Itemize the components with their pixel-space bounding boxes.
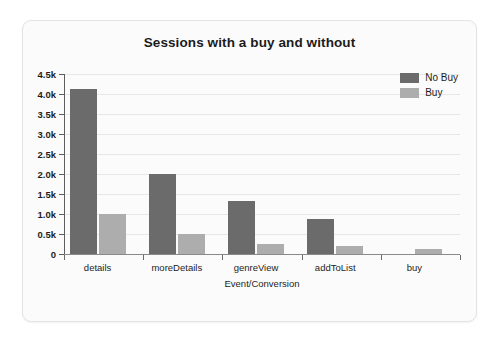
x-axis-tick: [302, 255, 303, 260]
category-label-details: details: [84, 262, 111, 273]
bar-details-buy[interactable]: [99, 214, 126, 254]
bar-moreDetails-no-buy[interactable]: [149, 174, 176, 254]
legend-swatch-buy: [400, 88, 419, 98]
chart-title: Sessions with a buy and without: [23, 35, 476, 50]
y-axis-tick-label: 1.0k: [38, 209, 57, 220]
y-axis-tick: [59, 134, 64, 135]
y-axis-tick: [59, 194, 64, 195]
bar-group: [70, 74, 126, 254]
y-axis-tick-label: 1.5k: [38, 189, 57, 200]
bar-moreDetails-buy[interactable]: [178, 234, 205, 254]
legend-label-buy: Buy: [425, 87, 442, 98]
x-axis-tick: [460, 255, 461, 260]
legend-swatch-no-buy: [400, 73, 419, 83]
category-label-moreDetails: moreDetails: [151, 262, 202, 273]
y-axis-tick: [59, 174, 64, 175]
bar-addToList-no-buy[interactable]: [307, 219, 334, 254]
bar-buy-buy[interactable]: [415, 249, 442, 254]
y-axis-tick: [59, 94, 64, 95]
bar-group: [228, 74, 284, 254]
y-axis-tick-label: 2.5k: [38, 149, 57, 160]
y-axis-tick: [59, 214, 64, 215]
y-axis-tick-label: 0.5k: [38, 229, 57, 240]
x-axis-tick: [64, 255, 65, 260]
category-label-addToList: addToList: [315, 262, 356, 273]
bar-genreView-no-buy[interactable]: [228, 201, 255, 254]
x-axis-tick: [143, 255, 144, 260]
y-axis-tick-label: 2.0k: [38, 169, 57, 180]
y-axis-line: [64, 74, 65, 255]
x-axis-title: Event/Conversion: [64, 278, 460, 289]
y-axis-tick: [59, 114, 64, 115]
y-axis-tick: [59, 234, 64, 235]
bar-group: [149, 74, 205, 254]
legend-label-no-buy: No Buy: [425, 72, 458, 83]
y-axis-tick-label: 3.5k: [38, 109, 57, 120]
category-label-buy: buy: [407, 262, 422, 273]
bar-addToList-buy[interactable]: [336, 246, 363, 254]
category-label-genreView: genreView: [234, 262, 279, 273]
bar-group: [307, 74, 363, 254]
chart-legend: No Buy Buy: [400, 72, 458, 102]
bar-details-no-buy[interactable]: [70, 89, 97, 254]
legend-item-buy[interactable]: Buy: [400, 87, 458, 98]
x-axis-tick: [381, 255, 382, 260]
y-axis-tick: [59, 154, 64, 155]
y-axis-tick-label: 3.0k: [38, 129, 57, 140]
legend-item-no-buy[interactable]: No Buy: [400, 72, 458, 83]
bar-genreView-buy[interactable]: [257, 244, 284, 254]
y-axis-tick-label: 0: [51, 249, 56, 260]
y-axis-tick-label: 4.0k: [38, 89, 57, 100]
x-axis-line: [64, 254, 460, 255]
chart-panel: Sessions with a buy and without 00.5k1.0…: [22, 20, 477, 322]
y-axis-tick: [59, 74, 64, 75]
x-axis-tick: [222, 255, 223, 260]
y-axis-tick-label: 4.5k: [38, 69, 57, 80]
